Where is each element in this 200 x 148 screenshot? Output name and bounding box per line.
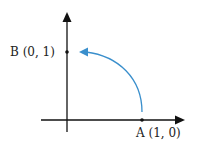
point-a-label: A (1, 0) [135, 126, 181, 140]
point-b-label: B (0, 1) [10, 45, 55, 59]
rotation-arc [86, 52, 142, 112]
rotation-arrow-icon [79, 48, 88, 57]
diagram-canvas: A (1, 0) B (0, 1) [0, 0, 200, 148]
y-axis-arrow-icon [63, 12, 72, 22]
point-b [65, 50, 69, 54]
point-a [140, 118, 144, 122]
x-axis-arrow-icon [175, 116, 185, 125]
